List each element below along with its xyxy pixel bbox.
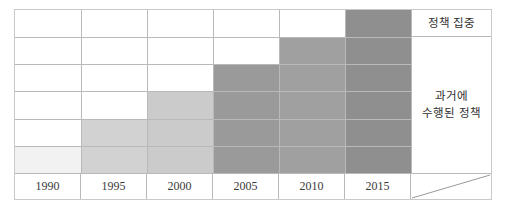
gridline-v-4	[279, 10, 280, 173]
policy-focus-stacked-chart: 정책 집중 과거에 수행된 정책 1990 1995 2000 2005 201…	[0, 0, 506, 217]
axis-corner-cell	[411, 174, 491, 199]
axis-label-1995: 1995	[81, 174, 147, 199]
axis-label-2000: 2000	[147, 174, 213, 199]
legend-policy-focus-label: 정책 집중	[412, 10, 491, 37]
chart-frame: 정책 집중 과거에 수행된 정책 1990 1995 2000 2005 201…	[14, 9, 492, 200]
gridline-v-1	[81, 10, 82, 173]
plot-area	[15, 10, 411, 173]
axis-label-2005: 2005	[213, 174, 279, 199]
gridline-v-5	[345, 10, 346, 173]
legend-past-policy-label: 과거에 수행된 정책	[412, 37, 491, 173]
axis-label-1990: 1990	[15, 174, 81, 199]
bar-2000	[147, 92, 213, 174]
bar-2010	[279, 37, 345, 173]
bar-1990	[15, 146, 81, 173]
gridline-v-2	[147, 10, 148, 173]
legend-past-policy-line1: 과거에	[435, 88, 468, 105]
gridline-v-3	[213, 10, 214, 173]
axis-year-row: 1990 1995 2000 2005 2010 2015	[15, 173, 491, 199]
legend-column: 정책 집중 과거에 수행된 정책	[411, 10, 491, 173]
axis-label-2010: 2010	[279, 174, 345, 199]
axis-label-2015: 2015	[345, 174, 411, 199]
diagonal-line-icon	[411, 174, 491, 199]
legend-past-policy-line2: 수행된 정책	[422, 105, 481, 122]
